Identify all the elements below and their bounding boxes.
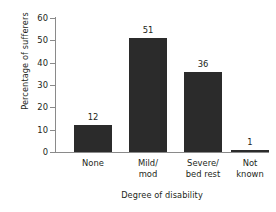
category-label-1: Mild/mod <box>118 158 178 180</box>
y-axis-line <box>55 17 56 152</box>
category-label-line: Mild/ <box>118 158 178 169</box>
y-tick-mark <box>50 130 55 131</box>
y-tick-label: 40 <box>37 58 48 68</box>
category-label-line: None <box>63 158 123 169</box>
y-tick-label: 50 <box>37 35 48 45</box>
y-tick-label: 30 <box>37 80 48 90</box>
y-tick-mark <box>50 107 55 108</box>
bar-2 <box>184 72 222 152</box>
y-tick-mark <box>50 40 55 41</box>
y-tick-mark <box>50 85 55 86</box>
bar-value-label: 36 <box>183 59 223 69</box>
x-axis-line <box>55 152 269 153</box>
bar-chart-figure: Percentage of sufferers 0102030405060 12… <box>0 0 276 212</box>
bar-0 <box>74 125 112 152</box>
y-axis-title: Percentage of sufferers <box>20 0 30 131</box>
y-tick-label: 10 <box>37 125 48 135</box>
y-tick-label: 60 <box>37 13 48 23</box>
bar-value-label: 1 <box>230 137 270 147</box>
bar-value-label: 51 <box>128 25 168 35</box>
y-tick-mark <box>50 152 55 153</box>
bar-3 <box>231 150 269 153</box>
y-tick-mark <box>50 18 55 19</box>
y-tick-label: 20 <box>37 102 48 112</box>
y-tick-mark <box>50 63 55 64</box>
category-label-3: Notknown <box>220 158 276 180</box>
bar-1 <box>129 38 167 152</box>
plot-area: 0102030405060 1251361 <box>55 18 269 152</box>
x-axis-title: Degree of disability <box>55 190 269 200</box>
category-label-line: known <box>220 169 276 180</box>
y-tick-label: 0 <box>43 147 48 157</box>
category-label-line: Not <box>220 158 276 169</box>
category-label-0: None <box>63 158 123 169</box>
bar-value-label: 12 <box>73 112 113 122</box>
category-label-line: mod <box>118 169 178 180</box>
